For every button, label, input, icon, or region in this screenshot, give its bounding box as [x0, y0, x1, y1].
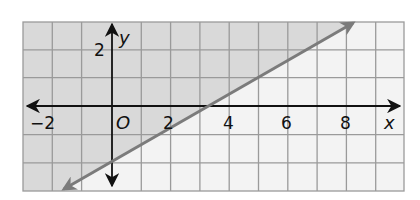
- y-tick-2: 2: [94, 40, 105, 60]
- x-axis-label: x: [383, 112, 395, 133]
- inequality-graph: −2 O 2 4 6 8 x 2 y: [0, 0, 420, 200]
- x-tick-neg2: −2: [30, 113, 55, 133]
- x-tick-4: 4: [223, 113, 234, 133]
- x-tick-8: 8: [340, 113, 351, 133]
- x-tick-6: 6: [281, 113, 292, 133]
- x-tick-2: 2: [163, 113, 174, 133]
- origin-label: O: [116, 112, 130, 133]
- y-axis-label: y: [118, 27, 130, 48]
